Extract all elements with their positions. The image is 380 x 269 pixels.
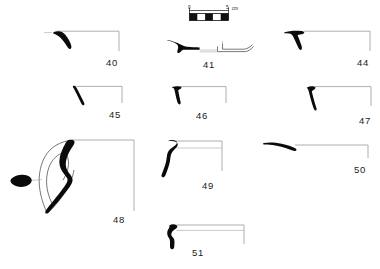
figure-50-drawing <box>262 140 372 166</box>
figure-51-label: 51 <box>192 248 204 258</box>
figure-46-drawing <box>168 84 230 112</box>
figure-50-label: 50 <box>354 165 366 175</box>
pottery-profile-plate: 0 5 cm 40 41 <box>0 0 380 269</box>
figure-44: 44 <box>282 28 374 60</box>
figure-50: 50 <box>262 140 372 166</box>
figure-47-label: 47 <box>359 116 371 126</box>
scale-end-label: 5 <box>226 6 229 11</box>
figure-49: 49 <box>160 138 226 186</box>
figure-48-label: 48 <box>113 215 125 225</box>
figure-40: 40 <box>42 28 124 60</box>
scale-unit-label: cm <box>232 7 238 12</box>
figure-41-label: 41 <box>203 60 215 70</box>
scale-bar: 0 5 cm <box>188 6 244 26</box>
figure-45: 45 <box>66 84 126 112</box>
figure-49-label: 49 <box>202 181 214 191</box>
figure-40-label: 40 <box>106 58 118 68</box>
figure-41: 41 <box>166 37 256 63</box>
figure-44-label: 44 <box>357 58 369 68</box>
figure-47: 47 <box>303 84 375 118</box>
figure-46-label: 46 <box>196 111 208 121</box>
figure-40-drawing <box>42 28 124 60</box>
figure-48-drawing <box>8 135 138 225</box>
figure-44-drawing <box>282 28 374 60</box>
scale-start-label: 0 <box>188 6 191 11</box>
figure-48: 48 <box>8 135 138 225</box>
figure-45-drawing <box>66 84 126 112</box>
figure-51-drawing <box>164 222 250 256</box>
figure-45-label: 45 <box>109 110 121 120</box>
figure-47-drawing <box>303 84 375 118</box>
figure-51: 51 <box>164 222 250 256</box>
figure-49-drawing <box>160 138 226 186</box>
figure-46: 46 <box>168 84 230 112</box>
